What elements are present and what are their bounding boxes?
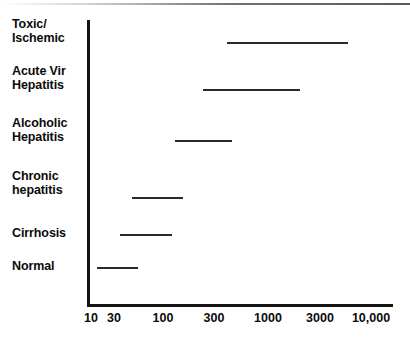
- range-bar-toxic-ischemic: [227, 42, 348, 44]
- x-tick-label-300: 300: [204, 311, 225, 325]
- liver-enzyme-range-chart: Toxic/ Ischemic Acute Vir Hepatitis Alco…: [0, 0, 410, 343]
- scan-artifact-rule: [0, 3, 410, 5]
- category-label-alcoholic-hepatitis: Alcoholic Hepatitis: [12, 117, 88, 144]
- x-tick-label-10: 10: [84, 311, 98, 325]
- category-label-cirrhosis: Cirrhosis: [12, 227, 88, 241]
- range-bar-normal: [97, 267, 138, 269]
- range-bar-acute-viral-hepatitis: [203, 89, 300, 91]
- category-label-chronic-hepatitis: Chronic hepatitis: [12, 170, 88, 197]
- x-tick-label-3000: 3000: [306, 311, 334, 325]
- range-bar-alcoholic-hepatitis: [175, 140, 232, 142]
- x-tick-label-10000: 10,000: [352, 311, 390, 325]
- range-bar-cirrhosis: [120, 234, 172, 236]
- category-label-normal: Normal: [12, 260, 88, 274]
- x-axis-line: [87, 304, 393, 307]
- x-tick-label-100: 100: [153, 311, 174, 325]
- x-tick-label-1000: 1000: [254, 311, 282, 325]
- category-label-acute-viral-hepatitis: Acute Vir Hepatitis: [12, 65, 88, 92]
- category-label-toxic-ischemic: Toxic/ Ischemic: [12, 18, 88, 45]
- range-bar-chronic-hepatitis: [132, 197, 183, 199]
- x-tick-label-30: 30: [107, 311, 121, 325]
